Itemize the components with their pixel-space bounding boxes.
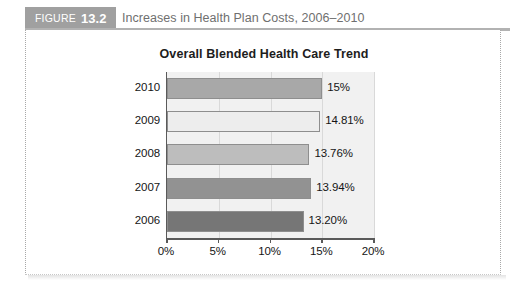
category-label-2010: 2010 <box>114 81 160 93</box>
x-axis-tick-label: 10% <box>250 245 290 257</box>
bar-value-2007: 13.94% <box>316 181 354 193</box>
x-axis-tick-label: 15% <box>301 245 341 257</box>
figure-drop-shadow <box>28 275 506 280</box>
x-axis-tick <box>270 238 272 243</box>
x-axis-tick <box>321 238 323 243</box>
x-axis-tick-label: 20% <box>353 245 393 257</box>
bar-2009 <box>167 111 320 132</box>
bar-value-2008: 13.76% <box>314 147 352 159</box>
x-axis-tick <box>166 238 168 243</box>
category-label-2006: 2006 <box>114 214 160 226</box>
bar-chart: Overall Blended Health Care Trend 201020… <box>26 30 502 275</box>
gridline <box>374 72 375 238</box>
bar-2007 <box>167 178 311 199</box>
figure-number-badge: FIGURE 13.2 <box>25 7 116 29</box>
bar-value-2006: 13.20% <box>309 214 347 226</box>
category-label-2007: 2007 <box>114 181 160 193</box>
figure-badge-word: FIGURE <box>35 12 76 24</box>
chart-title: Overall Blended Health Care Trend <box>26 47 502 61</box>
bar-2010 <box>167 78 322 99</box>
figure-badge-number: 13.2 <box>81 11 107 26</box>
figure-header: FIGURE 13.2 Increases in Health Plan Cos… <box>0 0 521 32</box>
bar-2008 <box>167 144 309 165</box>
bar-2006 <box>167 211 304 232</box>
x-axis-tick <box>218 238 220 243</box>
bar-value-2010: 15% <box>327 81 350 93</box>
x-axis-tick-label: 5% <box>198 245 238 257</box>
x-axis-tick-label: 0% <box>146 245 186 257</box>
figure-caption: Increases in Health Plan Costs, 2006–201… <box>122 7 364 29</box>
category-label-2008: 2008 <box>114 147 160 159</box>
category-label-2009: 2009 <box>114 114 160 126</box>
figure-body-frame: Overall Blended Health Care Trend 201020… <box>25 30 501 275</box>
x-axis-tick <box>373 238 375 243</box>
bar-value-2009: 14.81% <box>325 114 363 126</box>
